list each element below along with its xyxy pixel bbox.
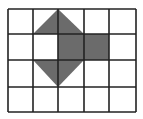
grid-figure (0, 0, 143, 119)
